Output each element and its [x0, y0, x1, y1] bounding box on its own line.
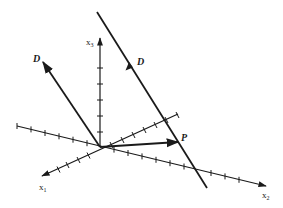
vector-diagram: D D P x3 x1 x2 — [0, 0, 283, 208]
x3-axis — [97, 38, 103, 147]
diagram-canvas: D D P x3 x1 x2 — [0, 0, 283, 208]
label-p: P — [181, 132, 188, 143]
x2-axis-ticks — [17, 123, 239, 183]
label-x3: x3 — [86, 37, 94, 48]
label-d-origin: D — [32, 53, 40, 64]
x2-axis — [17, 123, 266, 186]
label-x1: x1 — [39, 182, 47, 193]
line-through-p — [97, 12, 207, 188]
label-x2: x2 — [262, 190, 270, 201]
label-d-line: D — [136, 56, 144, 67]
